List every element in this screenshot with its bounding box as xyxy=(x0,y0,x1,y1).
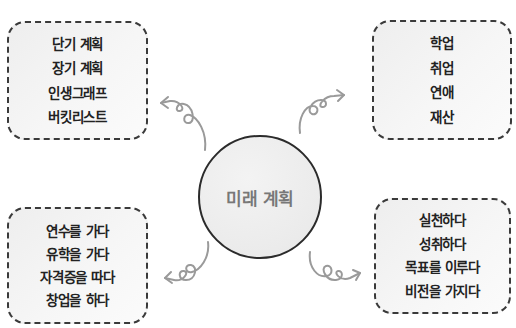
box-item: 성취하다 xyxy=(419,233,466,257)
box-item: 단기 계획 xyxy=(52,32,103,57)
box-item: 비전을 가지다 xyxy=(405,280,480,304)
curly-arrow-icon-bottom-right xyxy=(310,252,360,280)
center-title: 미래 계획 xyxy=(226,185,293,210)
box-item: 자격증을 따다 xyxy=(40,266,115,289)
curly-arrow-icon-bottom-left xyxy=(165,242,208,283)
box-item: 인생그래프 xyxy=(48,81,107,106)
box-item: 장기 계획 xyxy=(52,56,103,81)
box-item: 실천하다 xyxy=(419,209,466,233)
curly-arrow-icon-top-right xyxy=(300,90,344,133)
box-top-left-planning: 단기 계획 장기 계획 인생그래프 버킷리스트 xyxy=(7,21,148,140)
box-item: 창업을 하다 xyxy=(46,289,109,312)
box-item: 유학을 가다 xyxy=(46,243,109,266)
mind-map-diagram: 단기 계획 장기 계획 인생그래프 버킷리스트 학업 취업 연애 재산 연수를 … xyxy=(0,0,516,328)
box-item: 연수를 가다 xyxy=(46,220,109,243)
box-top-right-areas: 학업 취업 연애 재산 xyxy=(372,20,512,140)
box-item: 버킷리스트 xyxy=(48,105,107,130)
box-item: 연애 xyxy=(430,80,453,105)
box-bottom-right-goals: 실천하다 성취하다 목표를 이루다 비전을 가지다 xyxy=(374,198,511,314)
box-bottom-left-actions: 연수를 가다 유학을 가다 자격증을 따다 창업을 하다 xyxy=(7,207,148,324)
box-item: 재산 xyxy=(430,105,453,130)
box-item: 목표를 이루다 xyxy=(405,256,480,280)
box-item: 학업 xyxy=(430,31,453,56)
center-circle-node: 미래 계획 xyxy=(198,135,322,259)
box-item: 취업 xyxy=(430,56,453,81)
curly-arrow-icon-top-left xyxy=(161,97,205,150)
